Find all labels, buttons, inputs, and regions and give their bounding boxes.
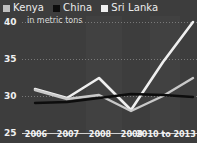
chart-container: Kenya China Sri Lanka in metric tons 40 … — [0, 0, 197, 143]
chart-plot-area — [0, 0, 197, 143]
